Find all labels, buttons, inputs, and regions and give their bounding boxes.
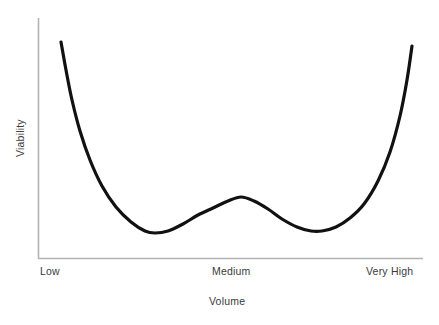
x-axis-title: Volume [209, 295, 245, 307]
x-tick-label-low: Low [40, 265, 60, 277]
x-tick-label-very-high: Very High [366, 265, 413, 277]
viability-curve-path [61, 42, 412, 233]
x-tick-label-medium: Medium [212, 265, 251, 277]
y-axis-title: Viability [14, 119, 26, 157]
chart-canvas: Viability Low Medium Very High Volume [0, 0, 439, 325]
